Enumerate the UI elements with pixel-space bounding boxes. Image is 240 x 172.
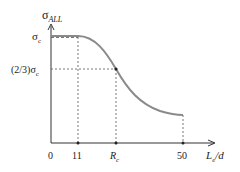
x-axis-label: Le/d (205, 149, 224, 164)
tick-11: 11 (72, 150, 82, 161)
point-rc (114, 67, 117, 70)
tick-rc: Rc (109, 150, 120, 164)
tick-50: 50 (177, 150, 187, 161)
tick-rc-dot (115, 142, 118, 145)
tick-origin: 0 (48, 150, 53, 161)
y-axis-label: σALL (42, 8, 63, 24)
stress-diagram: σALL σc (2/3)σc 0 11 Rc 50 Le/d (0, 0, 240, 172)
tick-sigma-c: σc (32, 30, 41, 45)
tick-two-thirds-sigma-c: (2/3)σc (11, 64, 39, 78)
curve-decline (78, 36, 183, 115)
tick-50-dot (182, 142, 185, 145)
tick-11-dot (77, 142, 80, 145)
